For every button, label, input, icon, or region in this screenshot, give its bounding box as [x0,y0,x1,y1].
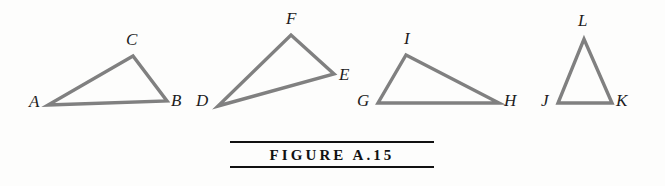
caption-rule-bottom [230,166,434,168]
vertex-label-h: H [504,92,516,109]
triangle-abc-shape [48,56,167,105]
figure-caption-text: FIGURE A.15 [230,145,434,165]
vertex-label-l: L [578,12,587,29]
figure-caption-block: FIGURE A.15 [230,141,434,168]
caption-rule-top [230,141,434,143]
vertex-label-b: B [171,92,181,109]
figure-container: A B C D E F G H I J K L FIGURE A.15 [0,0,665,186]
triangle-ghi-shape [378,55,499,103]
triangle-jkl-shape [558,39,612,103]
vertex-label-f: F [286,10,296,27]
vertex-label-a: A [29,93,39,110]
triangle-def-shape [218,35,334,106]
vertex-label-i: I [404,30,410,47]
vertex-label-k: K [616,92,627,109]
vertex-label-d: D [196,92,208,109]
vertex-label-j: J [541,92,549,109]
vertex-label-g: G [357,92,369,109]
vertex-label-c: C [126,31,137,48]
vertex-label-e: E [339,66,349,83]
